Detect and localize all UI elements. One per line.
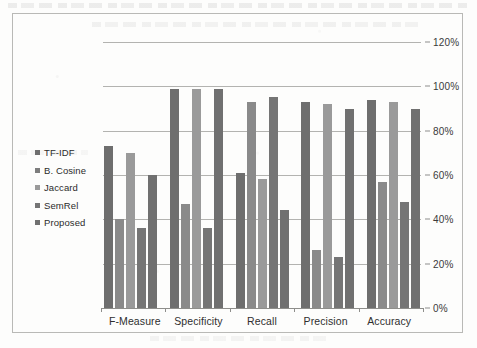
bar-jaccard-recall [258,179,267,308]
x-tick-mark-0 [101,308,102,312]
y-tick-label-60: 60% [433,170,454,181]
legend-swatch-icon [35,185,40,190]
page-bleed-through-top [8,3,468,8]
y-tick-label-0: 0% [433,303,448,314]
y-tick-mark-40 [425,219,430,220]
y-tick-mark-0 [425,308,430,309]
y-tick-mark-120 [425,42,430,43]
bar-jaccard-specificity [192,89,201,308]
legend-label: SemRel [44,200,78,211]
legend-item-semrel: SemRel [35,200,101,211]
bar-semrel-accuracy [400,202,409,308]
y-tick-label-120: 120% [433,37,459,48]
legend-swatch-icon [35,220,40,225]
y-tick-mark-60 [425,175,430,176]
bar-group-f-measure [103,42,158,308]
legend-label: TF-IDF [44,147,75,158]
bar-tf-idf-specificity [170,89,179,308]
bar-tf-idf-recall [236,173,245,308]
legend-label: Proposed [44,217,85,228]
x-axis-line [101,308,423,309]
bar-proposed-f-measure [148,175,157,308]
bar-group-accuracy [366,42,421,308]
x-tick-mark-5 [423,308,424,312]
bar-proposed-specificity [214,89,223,308]
bar-proposed-accuracy [411,109,420,309]
legend-label: B. Cosine [44,165,86,176]
x-tick-mark-3 [294,308,295,312]
x-tick-mark-1 [165,308,166,312]
bar-groups [103,42,421,308]
legend-swatch-icon [35,150,40,155]
bar-b-cosine-accuracy [378,182,387,308]
chart-legend: TF-IDFB. CosineJaccardSemRelProposed [35,147,101,235]
bar-tf-idf-f-measure [104,146,113,308]
bar-proposed-precision [345,109,354,309]
y-axis: 120%100%80%60%40%20%0% [425,34,477,316]
chart-frame: 120%100%80%60%40%20%0% F-MeasureSpecific… [12,13,463,333]
legend-item-b-cosine: B. Cosine [35,165,101,176]
bar-semrel-precision [334,257,343,308]
legend-item-tf-idf: TF-IDF [35,147,101,158]
y-tick-label-100: 100% [433,81,459,92]
legend-item-jaccard: Jaccard [35,182,101,193]
x-axis-label-accuracy: Accuracy [357,315,421,333]
bar-b-cosine-precision [312,250,321,308]
bar-b-cosine-recall [247,102,256,308]
bar-group-precision [300,42,355,308]
bar-jaccard-precision [323,104,332,308]
bar-jaccard-accuracy [389,102,398,308]
x-axis-label-precision: Precision [294,315,358,333]
x-axis-label-recall: Recall [230,315,294,333]
y-tick-label-40: 40% [433,214,454,225]
bar-proposed-recall [280,210,289,308]
bar-jaccard-f-measure [126,153,135,308]
y-tick-mark-20 [425,263,430,264]
y-tick-label-20: 20% [433,258,454,269]
bar-semrel-specificity [203,228,212,308]
page-bleed-through-lower [150,336,330,341]
bar-group-specificity [169,42,224,308]
x-axis-label-f-measure: F-Measure [103,315,167,333]
y-tick-mark-80 [425,130,430,131]
legend-label: Jaccard [44,182,78,193]
x-axis-label-specificity: Specificity [167,315,231,333]
bar-tf-idf-accuracy [367,100,376,308]
plot-area [103,42,421,308]
x-tick-mark-2 [230,308,231,312]
bar-semrel-f-measure [137,228,146,308]
bar-b-cosine-specificity [181,204,190,308]
x-axis-labels: F-MeasureSpecificityRecallPrecisionAccur… [103,315,421,333]
bar-tf-idf-precision [301,102,310,308]
y-tick-mark-100 [425,86,430,87]
x-tick-mark-4 [359,308,360,312]
legend-swatch-icon [35,203,40,208]
y-tick-label-80: 80% [433,125,454,136]
bar-group-recall [235,42,290,308]
bar-semrel-recall [269,97,278,308]
legend-item-proposed: Proposed [35,217,101,228]
legend-swatch-icon [35,168,40,173]
bar-b-cosine-f-measure [115,219,124,308]
